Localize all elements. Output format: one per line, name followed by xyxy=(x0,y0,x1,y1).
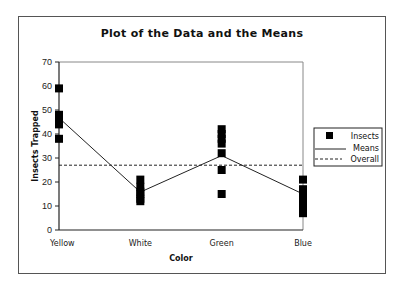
x-category-label: Yellow xyxy=(49,239,75,248)
legend-label-overall: Overall xyxy=(350,155,379,164)
means-line xyxy=(59,118,303,194)
data-points xyxy=(55,84,307,217)
legend-label-means: Means xyxy=(353,144,379,153)
y-axis-title: Insects Trapped xyxy=(31,110,40,182)
data-point-marker xyxy=(218,190,226,198)
data-point-marker xyxy=(136,197,144,205)
data-point-marker xyxy=(136,176,144,184)
x-category-label: White xyxy=(129,239,152,248)
y-tick-label: 10 xyxy=(42,201,52,211)
data-point-marker xyxy=(55,84,63,92)
data-point-marker xyxy=(55,135,63,143)
legend-label-insects: Insects xyxy=(351,132,379,141)
data-point-marker xyxy=(55,120,63,128)
data-point-marker xyxy=(218,140,226,148)
data-point-marker xyxy=(218,149,226,157)
y-tick-label: 70 xyxy=(42,57,52,67)
y-tick-label: 60 xyxy=(42,81,52,91)
y-tick-label: 20 xyxy=(42,177,52,187)
chart-plot: 010203040506070YellowWhiteGreenBlueColor… xyxy=(0,0,406,290)
axis-labels: 010203040506070YellowWhiteGreenBlueColor… xyxy=(31,57,312,263)
y-tick-label: 0 xyxy=(47,225,52,235)
x-category-label: Green xyxy=(210,239,234,248)
legend-square-icon xyxy=(326,132,333,139)
legend: InsectsMeansOverall xyxy=(314,128,382,166)
y-tick-label: 30 xyxy=(42,153,52,163)
y-tick-label: 40 xyxy=(42,129,52,139)
x-category-label: Blue xyxy=(294,239,312,248)
data-point-marker xyxy=(218,166,226,174)
axes xyxy=(55,62,303,230)
y-tick-label: 50 xyxy=(42,105,52,115)
data-point-marker xyxy=(299,209,307,217)
x-axis-title: Color xyxy=(169,254,193,263)
data-point-marker xyxy=(299,176,307,184)
